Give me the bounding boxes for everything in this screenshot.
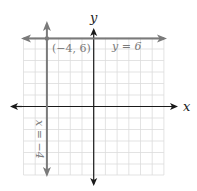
line-y6-label: y = 6: [111, 40, 141, 53]
coordinate-plane: y x (−4, 6) y = 6 x = −4: [0, 0, 197, 191]
y-axis-label: y: [89, 10, 98, 25]
point-label: (−4, 6): [52, 42, 91, 55]
line-xneg4-label: x = −4: [33, 120, 46, 159]
point-neg4-6: [45, 36, 49, 40]
x-axis-label: x: [183, 99, 191, 114]
